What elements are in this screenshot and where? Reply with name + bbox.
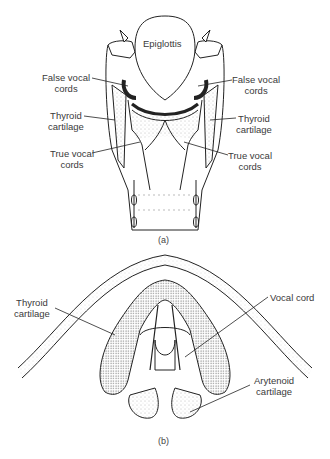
- label-true-vocal-cords-left: True vocal cords: [50, 148, 94, 170]
- caption-a: (a): [158, 235, 169, 245]
- label-line: False vocal: [232, 74, 280, 85]
- label-line: False vocal: [42, 72, 90, 83]
- label-line: Thyroid: [14, 297, 50, 308]
- label-thyroid-cartilage-b: Thyroid cartilage: [14, 297, 50, 319]
- label-line: cords: [228, 161, 272, 172]
- label-thyroid-cartilage-left: Thyroid cartilage: [48, 110, 84, 132]
- label-line: cartilage: [14, 308, 50, 319]
- label-thyroid-cartilage-right: Thyroid cartilage: [236, 113, 272, 135]
- label-vocal-cord: Vocal cord: [270, 292, 314, 303]
- label-false-vocal-cords-right: False vocal cords: [232, 74, 280, 96]
- label-epiglottis: Epiglottis: [143, 38, 182, 49]
- caption-b: (b): [158, 436, 169, 446]
- label-line: True vocal: [228, 150, 272, 161]
- label-line: cords: [42, 83, 90, 94]
- label-false-vocal-cords-left: False vocal cords: [42, 72, 90, 94]
- label-line: cords: [232, 85, 280, 96]
- label-line: True vocal: [50, 148, 94, 159]
- label-arytenoid-cartilage: Arytenoid cartilage: [254, 375, 294, 397]
- label-line: cartilage: [48, 121, 84, 132]
- label-line: cartilage: [254, 386, 294, 397]
- label-line: Thyroid: [236, 113, 272, 124]
- label-line: Thyroid: [48, 110, 84, 121]
- label-line: cartilage: [236, 124, 272, 135]
- label-line: cords: [50, 159, 94, 170]
- label-true-vocal-cords-right: True vocal cords: [228, 150, 272, 172]
- label-line: Arytenoid: [254, 375, 294, 386]
